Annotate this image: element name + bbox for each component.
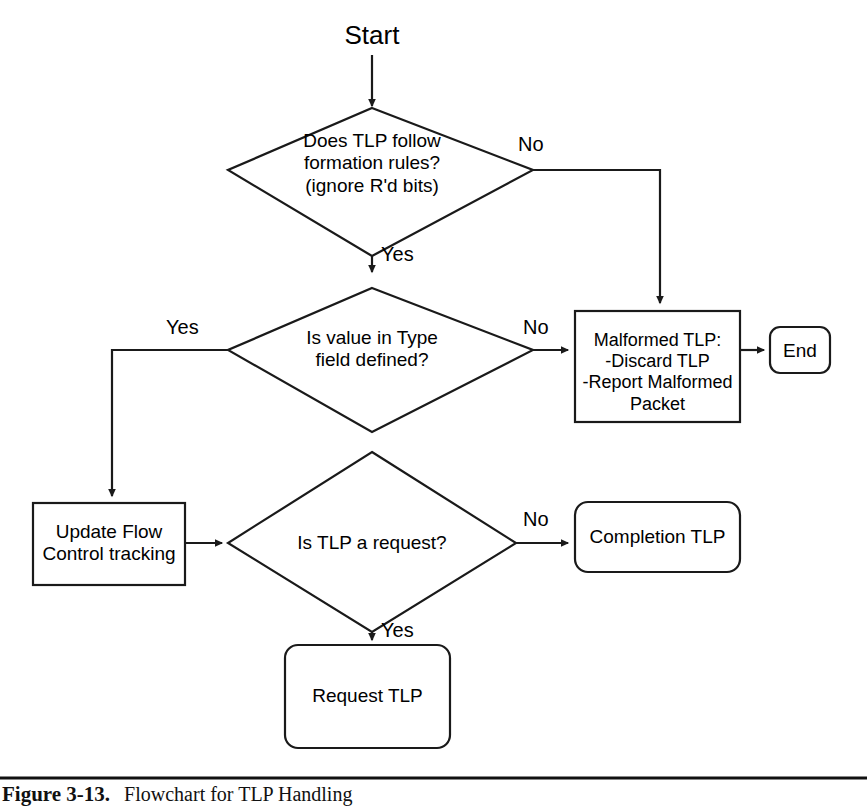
figure-caption-number: Figure 3-13. bbox=[2, 782, 110, 807]
box-completion-tlp bbox=[575, 502, 740, 572]
edge-formation-no bbox=[533, 170, 660, 303]
figure-caption-text: Flowchart for TLP Handling bbox=[124, 783, 352, 806]
diamond-is-request bbox=[228, 452, 516, 632]
diamond-formation-rules bbox=[228, 108, 533, 256]
figure-caption: Figure 3-13. Flowchart for TLP Handling bbox=[0, 782, 867, 810]
diamond-type-field bbox=[228, 288, 533, 432]
edge-type-yes bbox=[112, 350, 228, 496]
box-request-tlp bbox=[285, 645, 450, 748]
box-malformed-tlp bbox=[575, 311, 740, 422]
box-end bbox=[770, 327, 830, 373]
box-update-flow-control bbox=[33, 503, 185, 585]
